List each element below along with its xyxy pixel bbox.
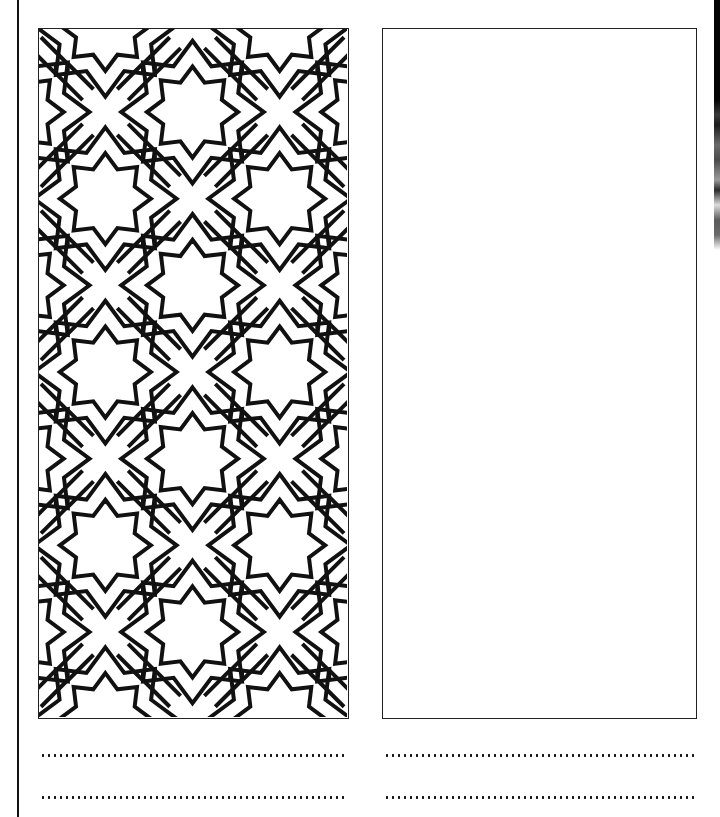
star-pattern-illustration	[39, 29, 347, 717]
writing-line-left-2[interactable]	[40, 796, 348, 799]
page-margin-line	[17, 0, 19, 817]
drawing-area-panel[interactable]	[382, 28, 697, 719]
scan-edge-shadow	[714, 0, 720, 250]
writing-line-right-1[interactable]	[384, 754, 696, 757]
writing-line-left-1[interactable]	[40, 754, 348, 757]
writing-line-right-2[interactable]	[384, 796, 696, 799]
pattern-panel	[38, 28, 349, 719]
